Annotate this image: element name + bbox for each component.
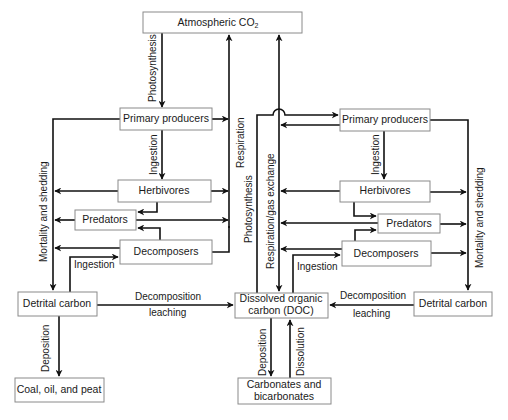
node-right-detrital-carbon: Detrital carbon: [414, 292, 492, 316]
node-coal-oil-peat: Coal, oil, and peat: [15, 378, 104, 402]
label-leaching-right: leaching: [353, 308, 390, 319]
node-atmospheric-co2: Atmospheric CO2: [143, 12, 302, 33]
svg-text:Predators: Predators: [82, 213, 128, 225]
node-left-decomposers: Decomposers: [120, 240, 212, 264]
svg-text:carbon (DOC): carbon (DOC): [248, 304, 313, 316]
svg-text:Predators: Predators: [386, 217, 432, 229]
svg-text:Detrital carbon: Detrital carbon: [419, 297, 487, 309]
node-left-detrital-carbon: Detrital carbon: [18, 292, 97, 316]
label-decomposition-right: Decomposition: [340, 290, 406, 301]
label-mortality-left: Mortality and shedding: [38, 161, 49, 262]
label-photosynthesis-left: Photosynthesis: [147, 34, 158, 102]
label-ingestion-left-detrital: Ingestion: [74, 259, 115, 270]
label-dissolution: Dissolution: [295, 327, 306, 376]
node-right-decomposers: Decomposers: [342, 241, 431, 266]
label-mortality-right: Mortality and shedding: [474, 167, 485, 268]
label-ingestion-right-pp: Ingestion: [370, 134, 381, 175]
node-left-predators: Predators: [75, 210, 136, 230]
svg-text:Primary producers: Primary producers: [342, 113, 428, 125]
svg-text:Coal, oil, and peat: Coal, oil, and peat: [17, 383, 102, 395]
edge-decomp-to-respiration: [212, 226, 229, 252]
svg-text:Herbivores: Herbivores: [360, 184, 411, 196]
label-deposition-center: Deposition: [257, 329, 268, 376]
node-right-herbivores: Herbivores: [340, 181, 430, 202]
node-left-primary-producers: Primary producers: [120, 108, 212, 130]
label-deposition-left: Deposition: [40, 325, 51, 372]
edge-herb-to-pred: [138, 202, 157, 212]
node-right-primary-producers: Primary producers: [340, 109, 430, 131]
edge-right-herb-to-pred: [354, 202, 376, 216]
svg-text:Detrital carbon: Detrital carbon: [23, 297, 91, 309]
edges: [53, 33, 468, 378]
label-leaching-left: leaching: [149, 307, 186, 318]
label-respiration-gas-exchange: Respiration/gas exchange: [265, 153, 276, 269]
node-left-herbivores: Herbivores: [118, 180, 211, 202]
carbon-cycle-diagram: Atmospheric CO2 Primary producers Herbiv…: [0, 0, 508, 420]
svg-text:Decomposers: Decomposers: [354, 247, 419, 259]
svg-text:Atmospheric CO2: Atmospheric CO2: [178, 16, 259, 29]
edge-right-decomp-to-pred: [355, 230, 376, 241]
svg-text:Dissolved organic: Dissolved organic: [240, 292, 323, 304]
svg-text:Carbonates and: Carbonates and: [247, 378, 322, 390]
svg-text:Primary producers: Primary producers: [123, 112, 209, 124]
label-ingestion-right-doc: Ingestion: [297, 261, 338, 272]
edge-labels: Photosynthesis Respiration Ingestion Mor…: [38, 34, 485, 376]
edge-mortality-right: [430, 120, 468, 290]
node-doc: Dissolved organic carbon (DOC): [235, 292, 328, 318]
svg-text:Decomposers: Decomposers: [134, 245, 199, 257]
node-right-predators: Predators: [378, 214, 440, 233]
label-photosynthesis-center: Photosynthesis: [243, 175, 254, 243]
label-respiration-left: Respiration: [235, 117, 246, 168]
node-carbonates: Carbonates and bicarbonates: [238, 378, 331, 404]
label-ingestion-left-pp: Ingestion: [148, 134, 159, 175]
svg-text:Herbivores: Herbivores: [139, 184, 190, 196]
svg-text:bicarbonates: bicarbonates: [254, 390, 314, 402]
label-decomposition-left: Decomposition: [135, 291, 201, 302]
edge-decomp-to-pred: [138, 228, 160, 240]
